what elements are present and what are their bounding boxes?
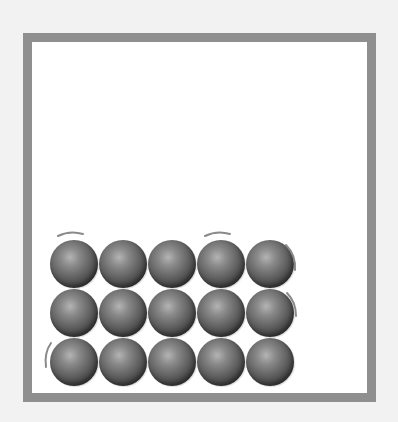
particle (246, 289, 294, 337)
particle (99, 338, 147, 386)
particle (197, 338, 245, 386)
particle (148, 338, 196, 386)
particle (99, 289, 147, 337)
particle (50, 338, 98, 386)
particle (246, 338, 294, 386)
particle (50, 289, 98, 337)
particle (99, 240, 147, 288)
particle (50, 240, 98, 288)
particle (148, 289, 196, 337)
particle (197, 289, 245, 337)
particle (148, 240, 196, 288)
particle (197, 240, 245, 288)
particle (246, 240, 294, 288)
